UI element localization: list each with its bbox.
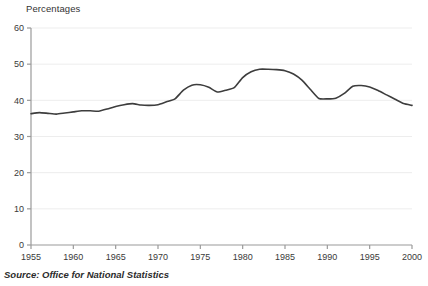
y-tick-label: 0 — [19, 240, 24, 250]
x-tick-label: 1970 — [148, 252, 168, 262]
x-tick-label: 1965 — [106, 252, 126, 262]
chart-figure: Percentages 0102030405060 19551960196519… — [0, 0, 428, 286]
x-tick-label: 1960 — [63, 252, 83, 262]
y-tick-label: 10 — [14, 204, 24, 214]
x-tick-label: 2000 — [402, 252, 422, 262]
x-tick-group: 1955196019651970197519801985199019952000 — [21, 245, 422, 262]
data-line — [31, 69, 412, 114]
x-tick-label: 1990 — [317, 252, 337, 262]
line-chart-plot: 0102030405060 19551960196519701975198019… — [0, 0, 428, 286]
source-note: Source: Office for National Statistics — [4, 269, 169, 280]
x-tick-label: 1975 — [190, 252, 210, 262]
y-tick-label: 30 — [14, 132, 24, 142]
x-tick-label: 1995 — [360, 252, 380, 262]
y-tick-label: 40 — [14, 96, 24, 106]
gridlines-group — [31, 28, 412, 209]
y-tick-label: 50 — [14, 59, 24, 69]
x-tick-label: 1955 — [21, 252, 41, 262]
y-tick-group: 0102030405060 — [14, 23, 31, 250]
data-series-group — [31, 69, 412, 114]
y-tick-label: 60 — [14, 23, 24, 33]
y-tick-label: 20 — [14, 168, 24, 178]
x-tick-label: 1980 — [233, 252, 253, 262]
x-tick-label: 1985 — [275, 252, 295, 262]
